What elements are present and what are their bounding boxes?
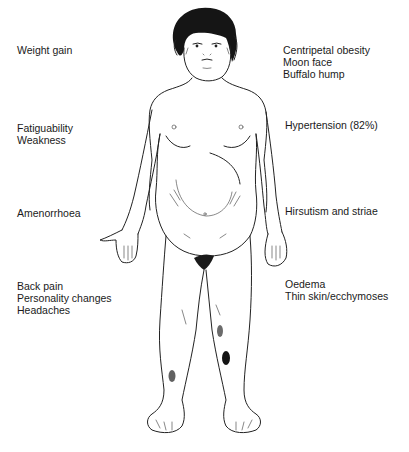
torso-outline bbox=[149, 78, 267, 256]
arms-outline bbox=[100, 110, 287, 266]
hair-icon bbox=[173, 8, 237, 62]
body-figure-illustration bbox=[0, 0, 409, 452]
moon-face-icon bbox=[184, 43, 231, 81]
pubic-hair-icon bbox=[194, 254, 214, 270]
